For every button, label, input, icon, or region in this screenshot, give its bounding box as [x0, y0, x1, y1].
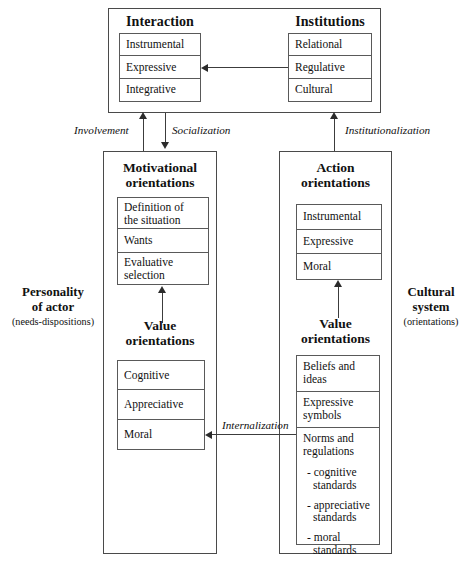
value-left-title-line1: Value: [103, 318, 217, 333]
cultural-label-line1: Cultural: [396, 285, 466, 300]
motivational-cell-line2: the situation: [124, 214, 202, 227]
value-right-cell[interactable]: Beliefs and ideas: [297, 356, 379, 392]
value-right-cell[interactable]: Expressive symbols: [297, 392, 379, 428]
motivational-column: Definition of the situation Wants Evalua…: [117, 197, 209, 285]
arrow-head-up-right-value: [334, 280, 342, 287]
value-left-cell[interactable]: Moral: [118, 420, 204, 449]
action-cell-line1: Instrumental: [303, 210, 361, 223]
standard-item-line1: - cognitive: [303, 466, 373, 479]
value-left-title: Value orientations: [103, 318, 217, 349]
connector-internalization: [212, 434, 296, 435]
arrow-head-down-socialization: [161, 142, 169, 149]
institutions-cell[interactable]: Cultural: [289, 79, 371, 101]
interaction-column: Instrumental Expressive Integrative: [119, 33, 201, 102]
value-right-cell-line1: Beliefs and: [303, 360, 373, 373]
cultural-system-label: Cultural system (orientations): [396, 285, 466, 328]
institutions-title: Institutions: [288, 14, 372, 30]
standard-item-line2: standards: [303, 544, 373, 557]
action-column: Instrumental Expressive Moral: [296, 204, 382, 280]
institutions-cell[interactable]: Regulative: [289, 56, 371, 78]
motivational-cell[interactable]: Definition of the situation: [118, 198, 208, 229]
norms-heading-line2: regulations: [303, 445, 373, 458]
motivational-cell-line1: Definition of: [124, 201, 202, 214]
action-cell-line1: Expressive: [303, 235, 353, 248]
standard-item-line2: standards: [303, 511, 373, 524]
arrow-head-left-internalization: [205, 431, 212, 439]
action-cell-line1: Moral: [303, 260, 331, 273]
institutions-cell[interactable]: Relational: [289, 34, 371, 56]
action-cell[interactable]: Moral: [297, 254, 381, 279]
motivational-cell-line1: Wants: [124, 234, 152, 247]
interaction-title: Interaction: [119, 14, 201, 30]
action-title-line2: orientations: [279, 175, 392, 190]
personality-label-line1: Personality: [5, 285, 101, 300]
connector-institutionalization: [334, 118, 335, 151]
personality-label-paren: (needs-dispositions): [5, 316, 101, 328]
connector-regulative-to-expressive: [208, 67, 288, 68]
connector-socialization: [165, 113, 166, 143]
label-institutionalization: Institutionalization: [345, 124, 430, 136]
norms-spacer: [303, 492, 373, 499]
motivational-cell[interactable]: Evaluative selection: [118, 253, 208, 284]
action-cell[interactable]: Instrumental: [297, 205, 381, 230]
norms-and-regulations-cell[interactable]: Norms and regulations - cognitive standa…: [297, 428, 379, 544]
value-left-cell[interactable]: Appreciative: [118, 390, 204, 419]
arrow-head-up-institutionalization: [330, 112, 338, 119]
motivational-title-line2: orientations: [103, 175, 217, 190]
label-internalization: Internalization: [222, 419, 289, 431]
diagram-canvas: Interaction Institutions Instrumental Ex…: [0, 0, 468, 567]
motivational-title-line1: Motivational: [103, 160, 217, 175]
value-right-title-line2: orientations: [279, 331, 392, 346]
value-right-cell-line1: Expressive: [303, 396, 373, 409]
value-right-title-line1: Value: [279, 316, 392, 331]
value-left-column: Cognitive Appreciative Moral: [117, 360, 205, 450]
motivational-cell-line2: selection: [124, 269, 202, 282]
norms-heading-line1: Norms and: [303, 432, 373, 445]
interaction-cell[interactable]: Instrumental: [120, 34, 200, 56]
standard-item-line1: - appreciative: [303, 499, 373, 512]
label-socialization: Socialization: [172, 124, 230, 136]
standard-item-line2: standards: [303, 479, 373, 492]
motivational-cell-line1: Evaluative: [124, 256, 202, 269]
norms-spacer: [303, 458, 373, 466]
cultural-label-paren: (orientations): [396, 316, 466, 328]
value-left-cell[interactable]: Cognitive: [118, 361, 204, 390]
value-right-title: Value orientations: [279, 316, 392, 347]
connector-right-value-to-action: [338, 286, 339, 318]
arrow-head-up-involvement: [139, 112, 147, 119]
motivational-title: Motivational orientations: [103, 160, 217, 191]
label-involvement: Involvement: [74, 124, 129, 136]
motivational-cell[interactable]: Wants: [118, 229, 208, 253]
personality-label-line2: of actor: [5, 300, 101, 315]
connector-involvement: [143, 118, 144, 151]
norms-spacer: [303, 524, 373, 531]
institutions-column: Relational Regulative Cultural: [288, 33, 372, 102]
value-right-cell-line2: symbols: [303, 409, 373, 422]
value-right-cell-line2: ideas: [303, 373, 373, 386]
interaction-cell[interactable]: Integrative: [120, 79, 200, 101]
action-cell[interactable]: Expressive: [297, 230, 381, 255]
cultural-label-line2: system: [396, 300, 466, 315]
action-title: Action orientations: [279, 160, 392, 191]
action-title-line1: Action: [279, 160, 392, 175]
standard-item-line1: - moral: [303, 531, 373, 544]
arrow-head-left-expressive: [201, 64, 208, 72]
value-left-title-line2: orientations: [103, 333, 217, 348]
interaction-cell[interactable]: Expressive: [120, 56, 200, 78]
value-right-column: Beliefs and ideas Expressive symbols Nor…: [296, 355, 380, 545]
personality-of-actor-label: Personality of actor (needs-dispositions…: [5, 285, 101, 328]
arrow-head-up-left-value: [158, 286, 166, 293]
